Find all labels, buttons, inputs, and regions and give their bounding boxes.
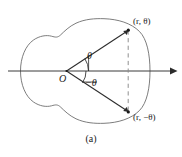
label-point-lower: (r, −θ) (133, 113, 156, 122)
polar-coordinates-figure: (r, θ) (r, −θ) O θ −θ (a) (0, 0, 182, 157)
polar-axis-arrowhead-icon (170, 68, 178, 75)
point-marker-upper (127, 29, 130, 32)
ray-upper (67, 31, 128, 71)
origin-marker (65, 70, 67, 72)
label-angle-negative: −θ (85, 78, 97, 88)
point-marker-lower (127, 110, 130, 113)
label-origin: O (59, 74, 66, 84)
figure-caption: (a) (0, 133, 182, 144)
label-point-upper: (r, θ) (133, 17, 150, 26)
label-angle-positive: θ (87, 51, 92, 61)
